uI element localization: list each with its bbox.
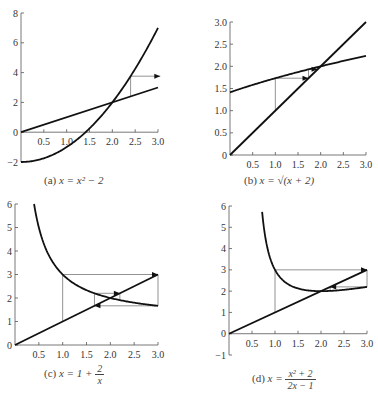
y-tick-label: −1 [215,350,226,361]
caption-label: (d) [252,372,265,384]
x-tick-label: 2.5 [338,338,351,349]
y-tick-label: 1 [221,307,226,318]
chart-d-caption: (d) x = x² + 2 2x − 1 [252,368,316,391]
function-curve [262,212,367,291]
x-tick-label: 3.0 [361,338,374,349]
x-tick-label: 1.0 [269,338,282,349]
caption-equation: x = [268,372,283,384]
x-tick-label: 2.0 [315,338,328,349]
y-tick-label: 3 [221,264,226,275]
y-tick-label: 2 [221,286,226,297]
fraction-denominator: 2x − 1 [285,380,315,391]
y-tick-label: 0 [221,328,226,339]
identity-line [229,270,367,334]
chart-panel-d: −101234560.51.01.52.02.53.0 (d) x = x² +… [0,0,378,401]
chart-d-content: −101234560.51.01.52.02.53.0 [215,201,373,361]
y-tick-label: 5 [221,222,226,233]
y-tick-label: 6 [221,201,226,212]
x-tick-label: 0.5 [246,338,259,349]
caption-fraction: x² + 2 2x − 1 [285,368,315,391]
fraction-numerator: x² + 2 [285,368,315,380]
chart-d-plot: −101234560.51.01.52.02.53.0 [0,0,378,401]
x-tick-label: 1.5 [292,338,305,349]
y-tick-label: 4 [221,243,226,254]
